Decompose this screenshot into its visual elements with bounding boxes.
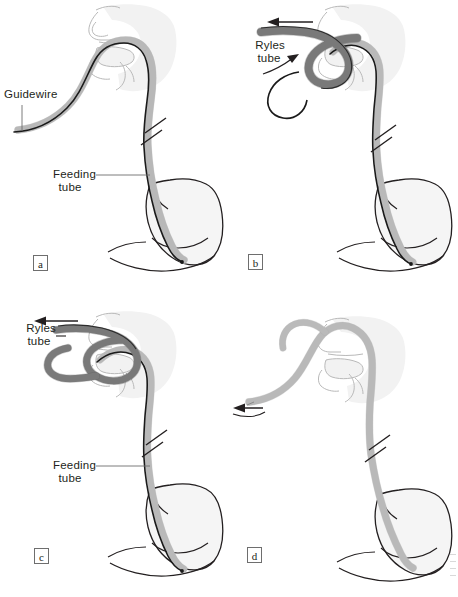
label-feeding-tube-c-line1: Feeding	[44, 459, 96, 471]
panel-letter-c: c	[34, 548, 49, 564]
label-feeding-tube-c-line2: tube	[44, 472, 96, 484]
label-guidewire: Guidewire	[4, 88, 58, 100]
scan-edge-marks	[448, 548, 458, 597]
panel-a	[0, 0, 229, 290]
label-ryles-tube-c-line1: Ryles	[22, 322, 56, 334]
panel-letter-b: b	[248, 254, 263, 270]
anatomy-head-a	[89, 4, 177, 110]
label-ryles-tube-b-line1: Ryles	[253, 39, 285, 51]
edge-mark	[450, 561, 456, 562]
withdraw-arrow-b	[267, 18, 313, 27]
label-ryles-tube-c-line2: tube	[22, 335, 56, 347]
panel-letter-d: d	[247, 547, 262, 563]
panel-letter-a: a	[33, 255, 48, 271]
panel-d	[229, 290, 458, 597]
figure-canvas: Guidewire Feeding tube Ryles tube Ryles …	[0, 0, 458, 597]
label-feeding-tube-a-line1: Feeding	[44, 168, 96, 180]
label-ryles-tube-b-line2: tube	[253, 52, 285, 64]
label-feeding-tube-a-line2: tube	[44, 181, 96, 193]
edge-mark	[450, 568, 456, 569]
edge-mark	[450, 554, 456, 555]
edge-mark	[450, 575, 456, 576]
